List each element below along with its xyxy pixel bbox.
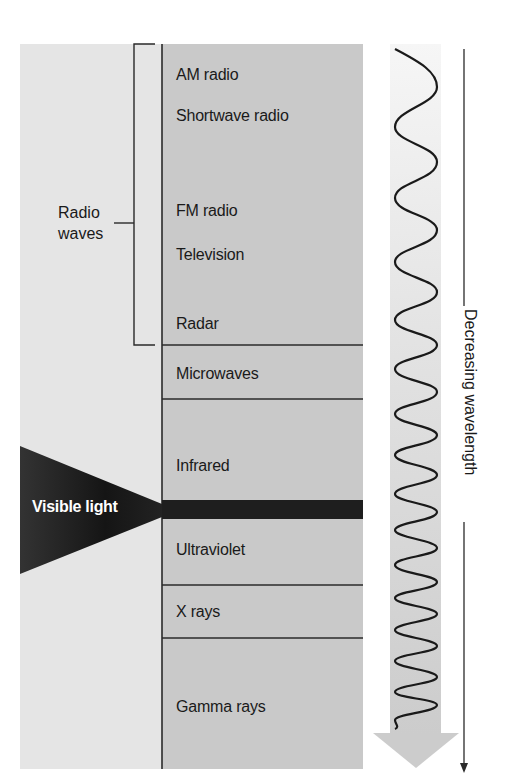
wavelength-arrow	[373, 44, 459, 768]
band-label-television: Television	[176, 246, 244, 264]
band-label-fm-radio: FM radio	[176, 202, 238, 220]
band-label-gamma-rays: Gamma rays	[176, 698, 266, 716]
band-label-microwaves: Microwaves	[176, 365, 258, 383]
band-label-ultraviolet: Ultraviolet	[176, 541, 245, 559]
visible-light-label: Visible light	[32, 498, 118, 516]
band-label-x-rays: X rays	[176, 603, 220, 621]
band-label-infrared: Infrared	[176, 457, 230, 475]
radio-waves-label: Radio waves	[58, 202, 103, 244]
decreasing-wavelength-label: Decreasing wavelength	[461, 306, 479, 522]
band-label-radar: Radar	[176, 315, 219, 333]
radio-bracket	[114, 44, 155, 345]
radio-waves-label-line2: waves	[58, 223, 103, 244]
band-label-shortwave-radio: Shortwave radio	[176, 107, 289, 125]
section-dividers	[162, 345, 363, 638]
radio-waves-label-line1: Radio	[58, 202, 103, 223]
band-label-am-radio: AM radio	[176, 66, 238, 84]
